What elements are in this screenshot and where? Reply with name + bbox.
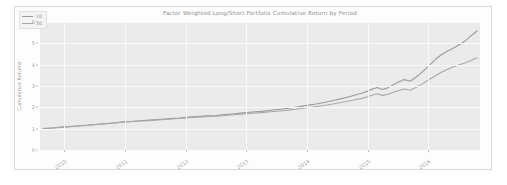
- gridline-horizontal: [40, 43, 480, 44]
- x-axis-tick-mark: [246, 150, 247, 152]
- gridline-vertical: [368, 22, 369, 150]
- x-axis-tick-label: 2012: [175, 158, 189, 170]
- y-axis-label: Cumulative Returns: [16, 61, 22, 110]
- y-axis-tick-mark: [36, 64, 38, 65]
- y-axis-tick-mark: [36, 86, 38, 87]
- gridline-vertical: [64, 22, 65, 150]
- gridline-vertical: [307, 22, 308, 150]
- legend-item-label: 10: [36, 14, 42, 19]
- x-axis-tick-label: 2016: [418, 158, 432, 170]
- y-axis-tick-label: 5: [32, 40, 35, 46]
- y-axis-tick-label: 3: [32, 83, 35, 89]
- x-axis-tick-label: 2011: [115, 158, 129, 170]
- gridline-vertical: [246, 22, 247, 150]
- y-axis-tick-label: 6: [32, 19, 35, 25]
- y-axis-tick-label: 0: [32, 147, 35, 153]
- x-axis-tick-mark: [64, 150, 65, 152]
- plot-area: [40, 22, 480, 150]
- x-axis-tick-mark: [186, 150, 187, 152]
- x-axis-tick-label: 2014: [297, 158, 311, 170]
- legend-swatch-icon: [22, 16, 33, 18]
- x-axis-tick-mark: [368, 150, 369, 152]
- gridline-horizontal: [40, 129, 480, 130]
- gridline-horizontal: [40, 86, 480, 87]
- y-axis-tick-label: 4: [32, 62, 35, 68]
- y-axis-tick-mark: [36, 107, 38, 108]
- gridline-horizontal: [40, 65, 480, 66]
- y-axis-tick-mark: [36, 43, 38, 44]
- x-axis-tick-label: 2013: [236, 158, 250, 170]
- series-line: [43, 58, 477, 129]
- chart-title: Factor Weighted Long/Short Portfolio Cum…: [40, 10, 480, 16]
- chart-figure: Factor Weighted Long/Short Portfolio Cum…: [14, 6, 492, 170]
- y-axis-tick-mark: [36, 128, 38, 129]
- x-axis-tick-mark: [307, 150, 308, 152]
- y-axis-tick-label: 2: [32, 104, 35, 110]
- gridline-vertical: [428, 22, 429, 150]
- x-axis-tick-mark: [428, 150, 429, 152]
- x-axis-tick-label: 2010: [54, 158, 68, 170]
- gridline-vertical: [125, 22, 126, 150]
- gridline-horizontal: [40, 107, 480, 108]
- series-line: [43, 31, 477, 129]
- y-axis-tick-mark: [36, 150, 38, 151]
- gridline-horizontal: [40, 22, 480, 23]
- gridline-vertical: [186, 22, 187, 150]
- x-axis-tick-label: 2015: [357, 158, 371, 170]
- y-axis-tick-label: 1: [32, 126, 35, 132]
- y-axis-tick-mark: [36, 22, 38, 23]
- x-axis-tick-mark: [125, 150, 126, 152]
